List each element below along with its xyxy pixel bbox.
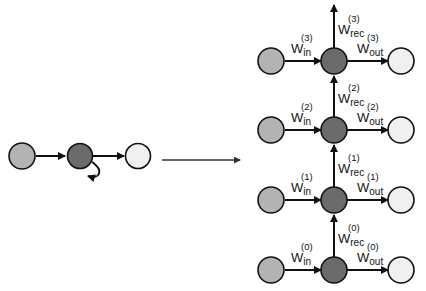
time-step-0: [258, 257, 414, 283]
w_in-label: Win: [291, 180, 311, 197]
output-node: [388, 257, 414, 283]
output-node: [126, 144, 151, 169]
w_rec-label: Wrec: [338, 22, 364, 39]
output-node: [388, 48, 414, 74]
w_out-superscript: (1): [367, 171, 379, 182]
w_in-superscript: (1): [301, 171, 313, 182]
w_out-superscript: (2): [367, 101, 379, 112]
time-step-3: [258, 48, 414, 74]
w_rec-superscript: (0): [348, 222, 360, 233]
unrolled-rnn: Win(3)Wout(3)Wrec(3)Win(2)Wout(2)Wrec(2)…: [258, 5, 414, 283]
folded-rnn: [9, 143, 151, 177]
w_rec-label: Wrec: [338, 91, 364, 108]
w_out-label: Wout: [357, 110, 383, 127]
w_out-label: Wout: [357, 250, 383, 267]
input-node: [258, 48, 284, 74]
w_rec-label: Wrec: [338, 161, 364, 178]
hidden-node: [321, 48, 347, 74]
w_in-superscript: (2): [301, 101, 313, 112]
time-step-1: [258, 187, 414, 213]
w_in-label: Win: [291, 110, 311, 127]
hidden-node: [321, 187, 347, 213]
w_rec-superscript: (1): [348, 152, 360, 163]
w_rec-label: Wrec: [338, 231, 364, 248]
input-node: [258, 117, 284, 143]
output-node: [388, 187, 414, 213]
w_out-label: Wout: [357, 180, 383, 197]
w_in-label: Win: [291, 41, 311, 58]
output-node: [388, 117, 414, 143]
w_rec-superscript: (3): [348, 13, 360, 24]
w_in-label: Win: [291, 250, 311, 267]
rnn-diagram: Win(3)Wout(3)Wrec(3)Win(2)Wout(2)Wrec(2)…: [0, 0, 426, 291]
hidden-node: [321, 257, 347, 283]
w_out-label: Wout: [357, 41, 383, 58]
w_rec-superscript: (2): [348, 82, 360, 93]
w_out-superscript: (0): [367, 241, 379, 252]
input-node: [258, 257, 284, 283]
hidden-node: [68, 144, 93, 169]
time-step-2: [258, 117, 414, 143]
input-node: [9, 143, 35, 169]
w_in-superscript: (3): [301, 32, 313, 43]
input-node: [258, 187, 284, 213]
w_out-superscript: (3): [367, 32, 379, 43]
w_in-superscript: (0): [301, 241, 313, 252]
hidden-node: [321, 117, 347, 143]
